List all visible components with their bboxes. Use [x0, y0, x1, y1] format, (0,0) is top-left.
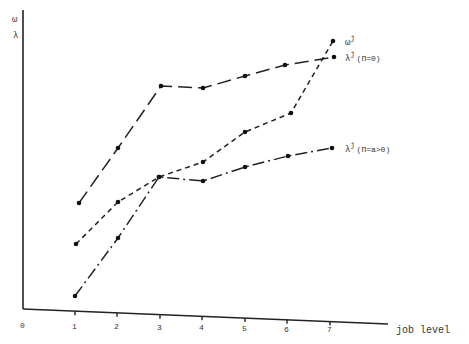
series-line-lambda_pi0: [79, 57, 334, 203]
data-point: [73, 294, 78, 299]
series-label-lambda_pia: λj(Π=a>0): [345, 141, 390, 155]
series-line-lambda_pia: [75, 148, 332, 296]
data-point: [157, 175, 162, 180]
data-point: [289, 111, 294, 116]
series-label-omega: ωj: [345, 34, 355, 48]
data-point: [201, 179, 206, 184]
data-point: [74, 242, 79, 247]
y-label-lambda: λ: [13, 31, 18, 41]
y-label-omega: ω: [12, 15, 18, 25]
data-point: [116, 146, 121, 151]
x-tick-label: 0: [20, 321, 25, 330]
data-point: [330, 146, 335, 151]
data-point: [331, 39, 336, 44]
data-point: [201, 160, 206, 165]
x-tick-label: 1: [72, 322, 77, 331]
chart: 01234567 ω λ job level λj(Π=0)ωjλj(Π=a>0…: [0, 0, 469, 344]
x-tick-label: 5: [242, 324, 247, 333]
data-point: [201, 86, 206, 91]
data-point: [116, 236, 121, 241]
data-point: [243, 165, 248, 170]
series-labels: λj(Π=0)ωjλj(Π=a>0): [345, 34, 390, 155]
data-point: [77, 201, 82, 206]
x-tick-label: 6: [284, 325, 289, 334]
x-tick-label: 7: [327, 325, 332, 334]
x-axis: [23, 309, 388, 324]
data-point: [243, 130, 248, 135]
x-tick-label: 3: [157, 323, 162, 332]
x-axis-label: job level: [396, 325, 450, 336]
data-point: [332, 55, 337, 60]
data-point: [243, 74, 248, 79]
data-point: [116, 200, 121, 205]
series-label-lambda_pi0: λj(Π=0): [345, 50, 381, 64]
x-tick-labels: 01234567: [20, 321, 332, 334]
x-tick-label: 4: [199, 323, 204, 332]
series-line-omega: [76, 41, 333, 244]
data-point: [159, 84, 164, 89]
series-group: [73, 39, 337, 299]
x-tick-label: 2: [114, 322, 119, 331]
data-point: [283, 63, 288, 68]
data-point: [286, 154, 291, 159]
